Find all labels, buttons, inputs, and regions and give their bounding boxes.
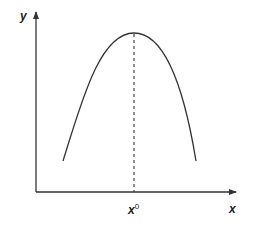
plot-canvas	[0, 0, 254, 229]
concave-curve	[63, 33, 196, 161]
peak-x-label: x0	[128, 203, 139, 216]
diagram: y x x0	[0, 0, 254, 229]
peak-x-label-superscript: 0	[135, 202, 139, 211]
y-axis-label: y	[20, 10, 27, 22]
x-axis-label: x	[229, 203, 236, 215]
peak-x-label-base: x	[128, 203, 135, 217]
